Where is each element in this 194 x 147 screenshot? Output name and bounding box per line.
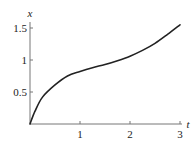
y-axis-label: x	[27, 7, 33, 19]
y-tick-label: 1.5	[13, 22, 27, 34]
chart: 0.5 1 1.5 1 2 3 x t	[0, 0, 194, 147]
x-axis-label: t	[186, 118, 190, 130]
data-curve	[30, 25, 180, 124]
x-tick-label: 3	[177, 128, 183, 140]
x-tick-label: 2	[127, 128, 133, 140]
y-tick-label: 1	[22, 54, 28, 66]
x-tick-label: 1	[77, 128, 83, 140]
y-tick-label: 0.5	[13, 86, 27, 98]
